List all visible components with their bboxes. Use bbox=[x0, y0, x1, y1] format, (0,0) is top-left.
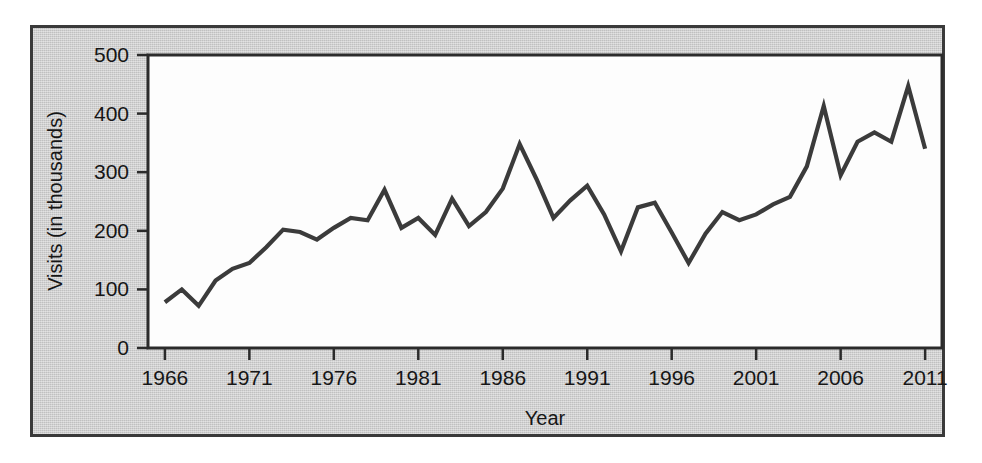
y-axis-tick-label: 400 bbox=[94, 102, 129, 125]
x-axis-tick-label: 1991 bbox=[564, 366, 611, 389]
x-axis-tick-label: 1966 bbox=[142, 366, 189, 389]
y-axis-tick-label: 200 bbox=[94, 219, 129, 242]
figure-container: 0100200300400500 19661971197619811986199… bbox=[0, 0, 982, 463]
y-axis-tick-label: 500 bbox=[94, 43, 129, 66]
x-axis-title: Year bbox=[525, 407, 566, 429]
y-axis: 0100200300400500 bbox=[94, 43, 148, 359]
y-axis-tick-label: 0 bbox=[117, 336, 129, 359]
y-axis-tick-label: 100 bbox=[94, 277, 129, 300]
x-axis-tick-label: 2011 bbox=[903, 366, 948, 389]
x-axis: 1966197119761981198619911996200120062011 bbox=[142, 348, 948, 389]
x-axis-tick-label: 2001 bbox=[733, 366, 780, 389]
y-axis-tick-label: 300 bbox=[94, 160, 129, 183]
x-axis-tick-label: 1996 bbox=[648, 366, 695, 389]
x-axis-tick-label: 1981 bbox=[395, 366, 442, 389]
x-axis-tick-label: 1971 bbox=[226, 366, 273, 389]
y-axis-title: Visits (in thousands) bbox=[44, 111, 66, 291]
x-axis-tick-label: 2006 bbox=[817, 366, 864, 389]
line-chart: 0100200300400500 19661971197619811986199… bbox=[0, 0, 982, 463]
x-axis-tick-label: 1986 bbox=[479, 366, 526, 389]
x-axis-tick-label: 1976 bbox=[310, 366, 357, 389]
